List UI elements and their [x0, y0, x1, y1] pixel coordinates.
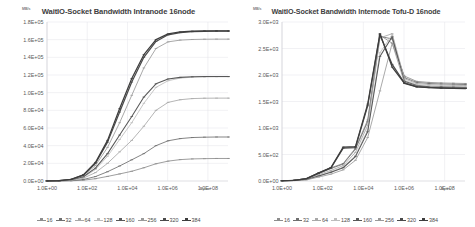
chart-legend-internode: 163264128160256320384 [237, 217, 475, 223]
legend-item-256[interactable]: 256 [138, 217, 157, 223]
y-axis-tick-label: 1.5E+03 [258, 99, 278, 105]
legend-label: 320 [170, 217, 179, 223]
y-axis-tick-label: 1.2E+05 [23, 72, 43, 78]
legend-item-128[interactable]: 128 [331, 217, 350, 223]
legend-item-384[interactable]: 384 [182, 217, 201, 223]
legend-swatch-icon [375, 218, 384, 222]
y-axis-tick-label: 2.5E+03 [258, 46, 278, 52]
chart-svg-internode: 0.0E+005.0E+021.0E+031.5E+032.0E+032.5E+… [237, 0, 475, 227]
x-axis-tick-label: 1.0E+00 [37, 185, 57, 191]
x-axis-tick-label: 1.0E+04 [353, 185, 373, 191]
legend-item-128[interactable]: 128 [94, 217, 113, 223]
x-axis-tick-label: 1.0E+04 [117, 185, 137, 191]
y-axis-tick-label: 1.4E+05 [23, 54, 43, 60]
series-line-128 [47, 77, 229, 181]
legend-item-16[interactable]: 16 [37, 217, 53, 223]
legend-item-320[interactable]: 320 [397, 217, 416, 223]
legend-swatch-icon [353, 218, 362, 222]
chart-panel-internode: MB/s WaitIO-Socket Bandwidth Internode T… [237, 0, 475, 227]
legend-label: 64 [322, 217, 328, 223]
legend-label: 256 [148, 217, 157, 223]
legend-item-32[interactable]: 32 [293, 217, 309, 223]
y-axis-tick-label: 8.0E+04 [23, 107, 43, 113]
y-axis-tick-label: 1.0E+05 [23, 90, 43, 96]
legend-swatch-icon [274, 218, 283, 222]
y-axis-tick-label: 5.0E+02 [258, 152, 278, 158]
legend-swatch-icon [331, 218, 340, 222]
series-line-160 [282, 37, 466, 181]
legend-swatch-icon [397, 218, 406, 222]
legend-label: 128 [341, 217, 350, 223]
y-axis-tick-label: 4.0E+04 [23, 143, 43, 149]
legend-item-256[interactable]: 256 [375, 217, 394, 223]
legend-item-160[interactable]: 160 [116, 217, 135, 223]
legend-item-16[interactable]: 16 [274, 217, 290, 223]
y-axis-tick-label: 3.0E+03 [258, 19, 278, 25]
legend-label: 160 [126, 217, 135, 223]
legend-swatch-icon [94, 218, 103, 222]
x-axis-tick-label: 1.0E+02 [313, 185, 333, 191]
chart-panel-intranode: MB/s WaitIO-Socket Bandwidth Intranode 1… [0, 0, 237, 227]
legend-label: 160 [363, 217, 372, 223]
series-line-384 [282, 34, 466, 181]
x-axis-tick-label: 1.0E+06 [158, 185, 178, 191]
series-line-16 [282, 35, 466, 180]
legend-label: 32 [303, 217, 309, 223]
legend-swatch-icon [293, 218, 302, 222]
x-axis-unit-label: Bytes [200, 187, 210, 191]
series-line-64 [282, 34, 466, 181]
legend-item-64[interactable]: 64 [312, 217, 328, 223]
legend-swatch-icon [312, 218, 321, 222]
x-axis-tick-label: 1.0E+02 [77, 185, 97, 191]
legend-swatch-icon [182, 218, 191, 222]
legend-item-64[interactable]: 64 [75, 217, 91, 223]
chart-svg-intranode: 0.0E+002.0E+044.0E+046.0E+048.0E+041.0E+… [0, 0, 237, 227]
legend-item-32[interactable]: 32 [56, 217, 72, 223]
legend-label: 384 [192, 217, 201, 223]
legend-label: 64 [85, 217, 91, 223]
legend-item-160[interactable]: 160 [353, 217, 372, 223]
legend-swatch-icon [56, 218, 65, 222]
chart-legend-intranode: 163264128160256320384 [0, 217, 237, 223]
y-axis-tick-label: 0.0E+00 [258, 178, 278, 184]
y-axis-tick-label: 0.0E+00 [23, 178, 43, 184]
y-axis-tick-label: 1.6E+05 [23, 37, 43, 43]
series-line-160 [47, 77, 229, 181]
legend-label: 384 [429, 217, 438, 223]
legend-label: 128 [104, 217, 113, 223]
legend-label: 320 [407, 217, 416, 223]
legend-label: 32 [66, 217, 72, 223]
x-axis-unit-label: Bytes [441, 187, 451, 191]
series-line-256 [47, 39, 229, 181]
x-axis-tick-label: 1.0E+06 [394, 185, 414, 191]
y-axis-tick-label: 2.0E+03 [258, 72, 278, 78]
legend-item-320[interactable]: 320 [160, 217, 179, 223]
y-axis-tick-label: 1.0E+03 [258, 125, 278, 131]
legend-swatch-icon [138, 218, 147, 222]
series-line-256 [282, 43, 466, 181]
series-line-128 [282, 35, 466, 181]
legend-label: 256 [385, 217, 394, 223]
x-axis-tick-label: 1.0E+00 [272, 185, 292, 191]
y-axis-tick-label: 6.0E+04 [23, 125, 43, 131]
series-line-320 [282, 35, 466, 181]
dual-chart-figure: MB/s WaitIO-Socket Bandwidth Intranode 1… [0, 0, 475, 227]
y-axis-tick-label: 1.8E+05 [23, 19, 43, 25]
y-axis-tick-label: 2.0E+04 [23, 160, 43, 166]
legend-item-384[interactable]: 384 [419, 217, 438, 223]
legend-swatch-icon [75, 218, 84, 222]
legend-label: 16 [284, 217, 290, 223]
legend-swatch-icon [116, 218, 125, 222]
legend-swatch-icon [160, 218, 169, 222]
legend-swatch-icon [419, 218, 428, 222]
legend-swatch-icon [37, 218, 46, 222]
series-line-32 [282, 36, 466, 180]
legend-label: 16 [47, 217, 53, 223]
